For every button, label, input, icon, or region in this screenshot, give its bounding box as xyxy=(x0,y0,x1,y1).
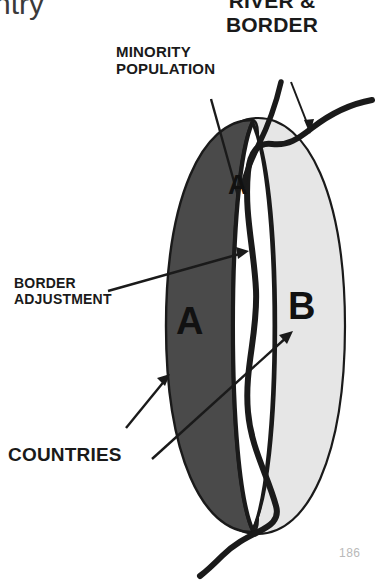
country-a-letter: A xyxy=(176,300,203,343)
border-adjustment-label: BORDER ADJUSTMENT xyxy=(14,276,112,307)
minority-population-label: MINORITY POPULATION xyxy=(116,44,215,78)
page-number: 186 xyxy=(339,546,361,560)
countries-label: COUNTRIES xyxy=(8,444,122,465)
diagram-canvas: ntry RIVER & BORDER MINORITY POPULATION … xyxy=(0,0,375,582)
river-border-label: RIVER & BORDER xyxy=(192,0,352,36)
countries-pointer-a-arrow xyxy=(126,374,170,428)
river-border-pointer-arrow xyxy=(291,82,314,134)
cut-off-page-title: ntry xyxy=(0,0,44,21)
minority-enclave-letter: A xyxy=(228,170,248,201)
country-b-letter: B xyxy=(288,285,315,328)
